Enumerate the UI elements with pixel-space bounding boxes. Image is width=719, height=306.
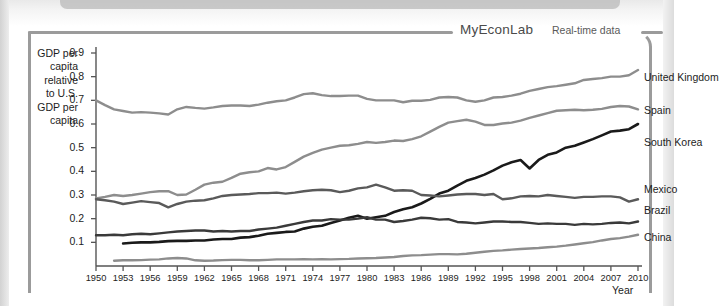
- x-tick-label: 1974: [302, 273, 323, 283]
- x-tick-label: 1977: [330, 273, 351, 283]
- series-label-brazil: Brazil: [644, 204, 670, 216]
- x-tick-label: 1998: [519, 273, 540, 283]
- x-tick-label: 1962: [194, 273, 215, 283]
- x-tick-label: 1950: [86, 273, 107, 283]
- series-label-china: China: [644, 231, 671, 243]
- series-label-mexico: Mexico: [644, 183, 677, 195]
- x-tick-label: 1989: [438, 273, 459, 283]
- y-tick-label: 0.4: [58, 164, 84, 176]
- y-tick-label: 0.6: [58, 117, 84, 129]
- x-tick-label: 1992: [465, 273, 486, 283]
- x-tick-label: 2007: [601, 273, 622, 283]
- series-label-united-kingdom: United Kingdom: [644, 71, 719, 83]
- x-tick-label: 1953: [113, 273, 134, 283]
- x-tick-label: 1965: [221, 273, 242, 283]
- axis-lines: [96, 47, 642, 266]
- x-tick-label: 2010: [628, 273, 649, 283]
- series-label-spain: Spain: [644, 104, 671, 116]
- y-tick-label: 0.7: [58, 93, 84, 105]
- x-tick-label: 1995: [492, 273, 513, 283]
- x-tick-label: 2004: [573, 273, 594, 283]
- y-tick-label: 0.8: [58, 70, 84, 82]
- x-tick-label: 1959: [167, 273, 188, 283]
- x-tick-label: 1980: [357, 273, 378, 283]
- y-tick-label: 0.2: [58, 212, 84, 224]
- x-tick-label: 1956: [140, 273, 161, 283]
- x-tick-label: 1983: [384, 273, 405, 283]
- x-tick-label: 1968: [248, 273, 269, 283]
- y-tick-label: 0.9: [58, 46, 84, 58]
- x-tick-label: 2001: [546, 273, 567, 283]
- y-tick-label: 0.1: [58, 235, 84, 247]
- x-tick-label: 1971: [275, 273, 296, 283]
- series-label-south-korea: South Korea: [644, 136, 702, 148]
- series-lines: [96, 70, 638, 261]
- y-tick-label: 0.3: [58, 188, 84, 200]
- y-tick-label: 0.5: [58, 141, 84, 153]
- x-tick-label: 1986: [411, 273, 432, 283]
